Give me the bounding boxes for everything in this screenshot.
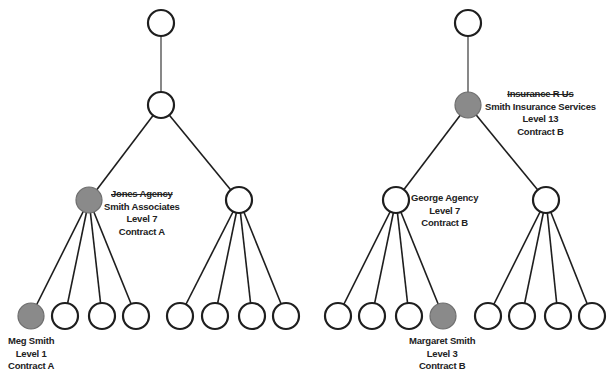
node-agent — [396, 303, 422, 329]
label-insurance-r-us: Insurance R Us Smith Insurance Services … — [485, 88, 596, 138]
agency-contract: Contract B — [485, 126, 596, 139]
node-root — [148, 10, 174, 36]
node-root — [455, 10, 481, 36]
node-agency — [383, 187, 409, 213]
node-agent-highlighted — [430, 303, 456, 329]
agent-level: Level 1 — [8, 348, 54, 361]
node-agent — [89, 303, 115, 329]
node-agent — [273, 303, 299, 329]
agency-level: Level 7 — [104, 213, 180, 226]
node-agency — [226, 187, 252, 213]
agent-name: Margaret Smith — [409, 335, 475, 348]
label-jones-agency: Jones Agency Smith Associates Level 7 Co… — [104, 188, 180, 238]
label-meg-smith: Meg Smith Level 1 Contract A — [8, 335, 54, 373]
node-agent — [509, 303, 535, 329]
node-agent-highlighted — [18, 303, 44, 329]
node-agent — [475, 303, 501, 329]
node-agent — [545, 303, 571, 329]
edge-child-leaf — [215, 200, 239, 316]
edge-child-leaf — [31, 200, 89, 316]
node-agent — [325, 303, 351, 329]
node-agent — [123, 303, 149, 329]
agent-name: Meg Smith — [8, 335, 54, 348]
node-agent — [579, 303, 605, 329]
edge-child-leaf — [522, 200, 546, 316]
label-george-agency: George Agency Level 7 Contract B — [411, 192, 478, 230]
node-level2 — [148, 92, 174, 118]
edge-child-leaf — [180, 200, 239, 316]
edge-level2-child — [161, 105, 239, 200]
node-agent — [239, 303, 265, 329]
edge-child-leaf — [546, 200, 558, 316]
struck-name: Insurance R Us — [485, 88, 596, 101]
agency-level: Level 13 — [485, 113, 596, 126]
node-agency-highlighted — [76, 187, 102, 213]
node-agent — [52, 303, 78, 329]
agency-contract: Contract B — [411, 217, 478, 230]
tree-nodes — [18, 10, 605, 329]
agency-name: George Agency — [411, 192, 478, 205]
node-agency — [533, 187, 559, 213]
edge-child-leaf — [488, 200, 546, 316]
agency-contract: Contract A — [104, 226, 180, 239]
node-agent — [202, 303, 228, 329]
agency-level: Level 7 — [411, 205, 478, 218]
edge-child-leaf — [338, 200, 396, 316]
hierarchy-diagram — [0, 0, 612, 378]
agency-name: Smith Insurance Services — [485, 101, 596, 114]
edge-level2-child — [396, 105, 468, 200]
agency-name: Smith Associates — [104, 201, 180, 214]
edge-child-leaf — [546, 200, 592, 316]
agent-level: Level 3 — [409, 348, 475, 361]
node-agent — [359, 303, 385, 329]
agent-contract: Contract A — [8, 360, 54, 373]
tree-edges — [31, 23, 592, 316]
edge-level2-child — [89, 105, 161, 200]
edge-child-leaf — [372, 200, 396, 316]
agent-contract: Contract B — [409, 360, 475, 373]
label-margaret-smith: Margaret Smith Level 3 Contract B — [409, 335, 475, 373]
struck-name: Jones Agency — [104, 188, 180, 201]
node-agent — [167, 303, 193, 329]
node-level2-highlighted — [455, 92, 481, 118]
edge-child-leaf — [65, 200, 89, 316]
